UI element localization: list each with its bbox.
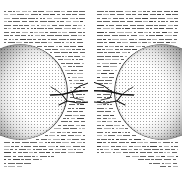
text-line-segment bbox=[83, 32, 85, 33]
text-line-segment bbox=[78, 32, 82, 33]
text-line-segment bbox=[70, 18, 75, 19]
text-line-segment bbox=[48, 39, 50, 40]
text-line-segment bbox=[154, 25, 158, 26]
text-line-segment bbox=[125, 28, 130, 29]
text-line-segment bbox=[66, 21, 71, 22]
text-line-segment bbox=[142, 42, 147, 43]
text-line-segment bbox=[4, 142, 10, 143]
text-line-segment bbox=[52, 152, 54, 153]
text-line-segment bbox=[97, 66, 101, 67]
text-line-segment bbox=[78, 35, 82, 36]
text-line-segment bbox=[122, 146, 127, 147]
text-line-segment bbox=[113, 152, 115, 153]
text-line-segment bbox=[162, 163, 164, 164]
text-line-segment bbox=[20, 18, 27, 19]
text-line-segment bbox=[8, 11, 12, 12]
text-line-segment bbox=[34, 152, 37, 153]
text-line-segment bbox=[46, 11, 53, 12]
text-line-segment bbox=[166, 42, 170, 43]
text-line-segment bbox=[108, 118, 111, 119]
text-line-segment bbox=[140, 156, 146, 157]
text-line-segment bbox=[19, 25, 23, 26]
text-line-segment bbox=[104, 149, 109, 150]
text-line-segment bbox=[48, 28, 53, 29]
text-line-segment bbox=[73, 21, 79, 22]
text-line-segment bbox=[24, 146, 31, 147]
text-line-segment bbox=[103, 66, 109, 67]
text-line-segment bbox=[50, 14, 55, 15]
text-line-segment bbox=[73, 146, 80, 147]
text-line-segment bbox=[140, 152, 146, 153]
text-line-segment bbox=[105, 152, 111, 153]
text-line-segment bbox=[68, 125, 74, 126]
text-line-segment bbox=[62, 42, 64, 43]
text-line-segment bbox=[4, 159, 6, 160]
text-line-segment bbox=[112, 39, 119, 40]
text-line-segment bbox=[18, 156, 23, 157]
text-line-segment bbox=[97, 21, 102, 22]
text-line-segment bbox=[132, 11, 136, 12]
text-line-segment bbox=[146, 35, 148, 36]
text-line-segment bbox=[73, 11, 78, 12]
text-line-segment bbox=[4, 28, 7, 29]
text-line-segment bbox=[17, 14, 24, 15]
text-line-segment bbox=[129, 146, 133, 147]
text-line-segment bbox=[62, 149, 66, 150]
text-line-segment bbox=[159, 28, 164, 29]
page-gutter bbox=[88, 0, 94, 184]
text-line-segment bbox=[143, 11, 146, 12]
text-line-segment bbox=[72, 49, 75, 50]
text-line-segment bbox=[132, 14, 136, 15]
text-line-segment bbox=[23, 152, 28, 153]
text-line-segment bbox=[69, 52, 72, 53]
text-line-segment bbox=[168, 25, 173, 26]
text-line-segment bbox=[129, 39, 134, 40]
text-line-segment bbox=[97, 59, 104, 60]
text-line-segment bbox=[4, 166, 7, 167]
text-line-segment bbox=[52, 25, 57, 26]
text-line-segment bbox=[4, 11, 6, 12]
text-line-segment bbox=[165, 39, 172, 40]
text-line-segment bbox=[103, 14, 109, 15]
text-line-segment bbox=[105, 132, 107, 133]
text-line-segment bbox=[76, 18, 78, 19]
text-line-segment bbox=[73, 25, 77, 26]
page-right[interactable] bbox=[94, 0, 182, 184]
text-line-segment bbox=[135, 18, 141, 19]
text-line-segment bbox=[27, 28, 29, 29]
text-line-segment bbox=[15, 39, 18, 40]
text-line-segment bbox=[153, 42, 156, 43]
text-line-segment bbox=[147, 146, 149, 147]
text-line-segment bbox=[25, 159, 31, 160]
text-line-segment bbox=[119, 35, 126, 36]
text-line-segment bbox=[158, 18, 165, 19]
text-line-segment bbox=[159, 146, 162, 147]
text-line-segment bbox=[59, 25, 64, 26]
text-line-segment bbox=[111, 70, 113, 71]
text-line-segment bbox=[48, 156, 50, 157]
text-line-segment bbox=[8, 159, 11, 160]
text-line-segment bbox=[82, 56, 85, 57]
text-line-segment bbox=[30, 32, 33, 33]
text-line-segment bbox=[139, 35, 144, 36]
text-line-segment bbox=[166, 21, 168, 22]
text-line-segment bbox=[146, 28, 149, 29]
text-line-segment bbox=[43, 14, 49, 15]
text-line-segment bbox=[171, 11, 173, 12]
text-line-segment bbox=[131, 35, 137, 36]
text-line-segment bbox=[171, 146, 173, 147]
text-line-segment bbox=[25, 14, 29, 15]
text-line-segment bbox=[38, 39, 41, 40]
text-line-segment bbox=[129, 152, 135, 153]
text-line-segment bbox=[32, 156, 35, 157]
text-line-segment bbox=[81, 121, 85, 122]
text-line-segment bbox=[173, 166, 178, 167]
text-line-segment bbox=[107, 121, 112, 122]
text-line-segment bbox=[126, 14, 131, 15]
page-left[interactable] bbox=[0, 0, 88, 184]
text-line-segment bbox=[106, 25, 108, 26]
text-line-segment bbox=[117, 32, 124, 33]
text-line-segment bbox=[101, 152, 104, 153]
text-line-segment bbox=[31, 25, 35, 26]
text-line-segment bbox=[83, 28, 85, 29]
